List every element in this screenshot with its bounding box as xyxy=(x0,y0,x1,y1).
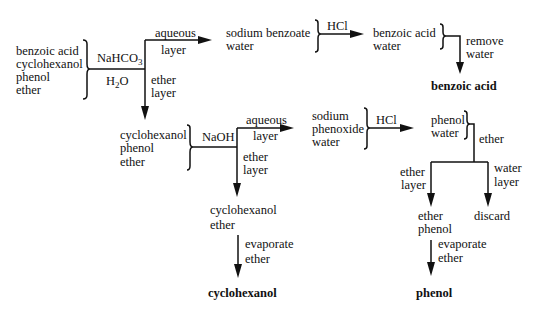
brace-acidified1 xyxy=(440,24,446,49)
label-water-layer: layer xyxy=(494,175,520,189)
arrow-down-icon xyxy=(234,264,242,278)
label-evaporate-2: ether xyxy=(245,252,271,266)
connector-extract xyxy=(470,124,474,162)
arrow-down-icon xyxy=(456,62,464,74)
label-ether-layer-2: ether xyxy=(243,150,269,164)
reagent-naoh: NaOH xyxy=(202,130,235,144)
acidified2-item: phenol xyxy=(431,113,466,127)
reagent-hcl-2: HCl xyxy=(376,113,397,127)
start-item: ether xyxy=(16,83,42,97)
aqueous2-item: sodium xyxy=(312,109,349,123)
start-item: phenol xyxy=(16,70,51,84)
product-phenol: phenol xyxy=(416,286,453,300)
label-ether-layer-1: ether xyxy=(151,73,177,87)
label-ether-layer-1: layer xyxy=(151,86,177,100)
reagent-hcl-1: HCl xyxy=(327,19,348,33)
label-ether-layer-3: layer xyxy=(401,178,427,192)
ether2-item: ether xyxy=(210,218,236,232)
aqueous1-item: water xyxy=(226,39,255,53)
arrow-down-icon xyxy=(427,262,435,276)
label-aqueous-layer-2: layer xyxy=(253,129,279,143)
label-aqueous-layer-2: aqueous xyxy=(246,113,287,127)
acidified1-item: benzoic acid xyxy=(373,26,437,40)
arrow-right-icon xyxy=(198,36,212,44)
aqueous1-item: sodium benzoate xyxy=(226,26,311,40)
brace-aqueous2 xyxy=(364,108,370,149)
product-cyclohexanol: cyclohexanol xyxy=(208,286,277,300)
arrow-down-icon xyxy=(484,193,492,207)
label-water-layer: water xyxy=(494,161,523,175)
arrow-down-icon xyxy=(427,193,435,207)
acidified2-item: water xyxy=(431,126,460,140)
aqueous2-item: water xyxy=(312,135,341,149)
label-aqueous-layer-1: aqueous xyxy=(155,26,196,40)
ether2-item: cyclohexanol xyxy=(210,203,277,217)
discard-label: discard xyxy=(474,209,511,223)
arrow-down-icon xyxy=(233,183,241,197)
product-benzoic-acid: benzoic acid xyxy=(431,79,497,93)
label-remove-water: water xyxy=(466,47,495,61)
brace-start xyxy=(83,40,90,99)
ether-phase-item: phenol xyxy=(418,222,453,236)
label-aqueous-layer-1: layer xyxy=(161,43,187,57)
ether1-item: cyclohexanol xyxy=(120,128,187,142)
label-ether-layer-2: layer xyxy=(243,163,269,177)
reagent-water: H2O xyxy=(106,74,129,90)
label-ether-extract: ether xyxy=(479,132,505,146)
arrow-down-icon xyxy=(141,106,149,120)
arrow-right-icon xyxy=(400,124,414,132)
ether1-item: phenol xyxy=(120,141,155,155)
arrow-right-icon xyxy=(350,30,364,38)
reagent-nahco3: NaHCO3 xyxy=(97,51,143,67)
ether-phase-item: ether xyxy=(418,209,444,223)
label-evaporate-2: evaporate xyxy=(245,237,294,251)
label-evaporate-3: evaporate xyxy=(438,237,487,251)
start-item: benzoic acid xyxy=(16,44,80,58)
brace-aqueous1 xyxy=(315,20,321,52)
start-mixture: benzoic acid cyclohexanol phenol ether xyxy=(16,44,83,97)
label-ether-layer-3: ether xyxy=(400,165,426,179)
connector-remove-water xyxy=(446,36,460,64)
start-item: cyclohexanol xyxy=(16,57,83,71)
label-evaporate-3: ether xyxy=(438,251,464,265)
aqueous2-item: phenoxide xyxy=(312,122,365,136)
acidified1-item: water xyxy=(373,39,402,53)
label-remove-water: remove xyxy=(466,34,504,48)
ether1-item: ether xyxy=(120,155,146,169)
brace-ether1 xyxy=(187,125,193,170)
separation-flowchart: benzoic acid cyclohexanol phenol ether N… xyxy=(0,0,534,313)
